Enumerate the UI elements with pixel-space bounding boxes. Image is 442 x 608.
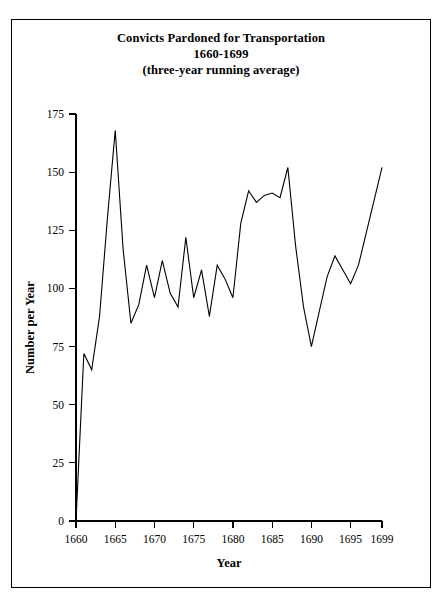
y-axis-tick-label: 150 xyxy=(47,166,65,178)
x-axis-tick-label: 1680 xyxy=(221,533,244,545)
y-axis-tick-label: 25 xyxy=(53,457,65,469)
y-axis-tick-label: 75 xyxy=(53,341,65,353)
data-series-line xyxy=(76,130,382,521)
x-axis-title: Year xyxy=(217,556,242,570)
y-axis-tick-label: 50 xyxy=(53,399,65,411)
x-axis-tick-label: 1660 xyxy=(65,533,88,545)
x-axis-tick-label: 1690 xyxy=(300,533,323,545)
x-axis-tick-label: 1670 xyxy=(143,533,166,545)
y-axis-tick-label: 125 xyxy=(47,224,65,236)
y-axis-tick-label: 0 xyxy=(58,515,64,527)
chart-figure: Convicts Pardoned for Transportation 166… xyxy=(11,19,431,588)
x-axis-tick-label: 1695 xyxy=(339,533,362,545)
x-axis-tick-label: 1699 xyxy=(371,533,394,545)
y-axis-tick-label: 175 xyxy=(47,108,65,120)
line-chart-svg: 0255075100125150175166016651670167516801… xyxy=(12,20,432,589)
y-axis-tick-label: 100 xyxy=(47,282,65,294)
x-axis-tick-label: 1685 xyxy=(261,533,284,545)
x-axis-tick-label: 1665 xyxy=(104,533,127,545)
x-axis-tick-label: 1675 xyxy=(182,533,205,545)
y-axis-title: Number per Year xyxy=(23,281,37,374)
plot-area: 0255075100125150175166016651670167516801… xyxy=(12,20,432,589)
